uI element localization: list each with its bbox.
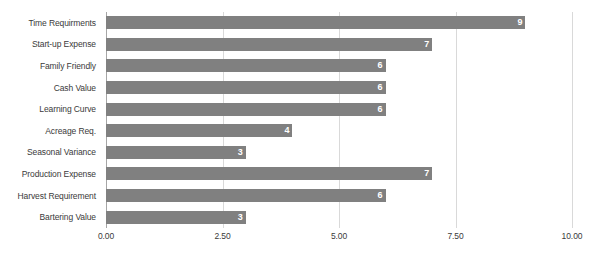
- category-label: Family Friendly: [40, 55, 96, 77]
- bar-value-label: 4: [284, 126, 292, 135]
- bar-value-label: 3: [238, 148, 246, 157]
- bar-value-label: 6: [378, 61, 386, 70]
- category-label: Harvest Requirement: [18, 185, 96, 207]
- bar-series: 9766643763: [106, 12, 572, 228]
- category-label: Learning Curve: [39, 98, 96, 120]
- category-axis-labels: Time RequirmentsStart-up ExpenseFamily F…: [0, 12, 100, 228]
- bar: 3: [106, 211, 246, 224]
- bar: 7: [106, 38, 432, 51]
- bar-row: 7: [106, 163, 572, 185]
- bar: 6: [106, 189, 386, 202]
- bar-value-label: 6: [378, 105, 386, 114]
- bar: 4: [106, 124, 292, 137]
- bar-value-label: 7: [424, 40, 432, 49]
- category-label: Acreage Req.: [45, 120, 96, 142]
- bar-row: 3: [106, 142, 572, 164]
- value-tick-label: 5.00: [331, 231, 347, 241]
- category-label: Cash Value: [54, 77, 96, 99]
- bar: 6: [106, 59, 386, 72]
- bar-row: 6: [106, 55, 572, 77]
- bar-value-label: 6: [378, 191, 386, 200]
- horizontal-bar-chart: Time RequirmentsStart-up ExpenseFamily F…: [0, 0, 604, 258]
- bar-row: 6: [106, 98, 572, 120]
- bar-row: 6: [106, 185, 572, 207]
- category-label: Start-up Expense: [32, 34, 96, 56]
- bar: 9: [106, 16, 525, 29]
- value-tick-label: 10.00: [562, 231, 583, 241]
- value-tick-label: 7.50: [447, 231, 463, 241]
- gridline: [572, 12, 573, 228]
- plot-area: 9766643763: [106, 12, 572, 228]
- category-label: Production Expense: [22, 163, 96, 185]
- bar-row: 6: [106, 77, 572, 99]
- value-axis-labels: 0.002.505.007.5010.00: [0, 231, 604, 247]
- bar-row: 7: [106, 34, 572, 56]
- value-tick-label: 2.50: [214, 231, 230, 241]
- bar-value-label: 9: [517, 18, 525, 27]
- bar: 6: [106, 103, 386, 116]
- bar: 3: [106, 146, 246, 159]
- bar-row: 4: [106, 120, 572, 142]
- bar-row: 3: [106, 206, 572, 228]
- bar-row: 9: [106, 12, 572, 34]
- bar-value-label: 7: [424, 169, 432, 178]
- category-label: Seasonal Variance: [27, 142, 96, 164]
- bar: 7: [106, 167, 432, 180]
- bar: 6: [106, 81, 386, 94]
- bar-value-label: 3: [238, 213, 246, 222]
- category-label: Time Requirments: [28, 12, 96, 34]
- value-tick-label: 0.00: [98, 231, 114, 241]
- category-label: Bartering Value: [40, 206, 96, 228]
- bar-value-label: 6: [378, 83, 386, 92]
